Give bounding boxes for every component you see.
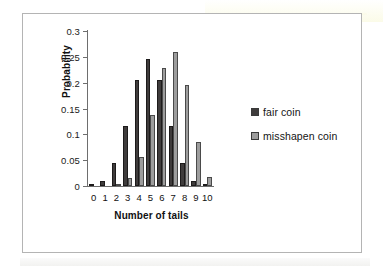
x-axis-tick-label: 0 xyxy=(88,192,99,203)
y-axis-tick-label: 0.1 xyxy=(66,129,80,140)
bar-group xyxy=(133,31,144,186)
x-axis-tick-label: 8 xyxy=(179,192,190,203)
x-axis-tick-label: 1 xyxy=(99,192,110,203)
x-axis-tick-label: 7 xyxy=(168,192,179,203)
x-axis-tick-label: 6 xyxy=(156,192,167,203)
x-axis-tick-label: 5 xyxy=(145,192,156,203)
bar-group xyxy=(190,31,201,186)
bar-group xyxy=(168,31,179,186)
y-axis-tick-label: 0.2 xyxy=(66,77,80,88)
bar-misshapen-coin-3 xyxy=(128,178,133,186)
bar-fair-coin-2 xyxy=(112,163,117,186)
x-axis-tick-label: 2 xyxy=(111,192,122,203)
legend-swatch-fair xyxy=(251,108,259,116)
scan-artifact-bottom-edge xyxy=(20,258,370,266)
bar-fair-coin-1 xyxy=(100,181,105,186)
legend-item: misshapen coin xyxy=(251,130,359,142)
bar-misshapen-coin-4 xyxy=(139,157,144,186)
bar-group xyxy=(179,31,190,186)
bar-misshapen-coin-5 xyxy=(150,115,155,186)
bar-group xyxy=(202,31,213,186)
legend-label: fair coin xyxy=(263,106,301,118)
bar-group xyxy=(145,31,156,186)
bar-misshapen-coin-7 xyxy=(173,52,178,186)
x-axis-line xyxy=(87,186,214,187)
chart-screenshot: Probability 00.050.10.150.20.250.3 01234… xyxy=(0,0,383,266)
bar-group xyxy=(111,31,122,186)
bar-misshapen-coin-9 xyxy=(196,142,201,186)
legend-swatch-miss xyxy=(251,132,259,140)
x-axis-tick-label: 10 xyxy=(202,192,213,203)
chart-frame: Probability 00.050.10.150.20.250.3 01234… xyxy=(22,13,362,253)
legend-label: misshapen coin xyxy=(263,130,337,142)
legend-item: fair coin xyxy=(251,106,359,118)
bar-group xyxy=(88,31,99,186)
y-axis-tick-label: 0.25 xyxy=(61,51,80,62)
y-axis-tick-label: 0.05 xyxy=(61,155,80,166)
y-axis-tick-label: 0 xyxy=(75,181,80,192)
bar-series-container xyxy=(88,31,213,186)
bar-misshapen-coin-2 xyxy=(116,184,121,186)
bar-misshapen-coin-6 xyxy=(162,68,167,186)
x-axis-tick-label: 4 xyxy=(133,192,144,203)
x-axis-tick-label: 9 xyxy=(190,192,201,203)
bar-misshapen-coin-10 xyxy=(207,177,212,186)
bar-group xyxy=(99,31,110,186)
bar-misshapen-coin-8 xyxy=(185,85,190,186)
x-axis-tick-labels: 012345678910 xyxy=(88,192,213,203)
chart-legend: fair coinmisshapen coin xyxy=(251,106,359,154)
bar-group xyxy=(122,31,133,186)
bar-fair-coin-0 xyxy=(89,184,94,186)
x-axis-title: Number of tails xyxy=(59,210,244,221)
y-axis-tick-label: 0.15 xyxy=(61,103,80,114)
x-axis-tick-label: 3 xyxy=(122,192,133,203)
y-axis-tick-label: 0.3 xyxy=(66,26,80,37)
y-axis-tick xyxy=(83,186,88,187)
bar-group xyxy=(156,31,167,186)
